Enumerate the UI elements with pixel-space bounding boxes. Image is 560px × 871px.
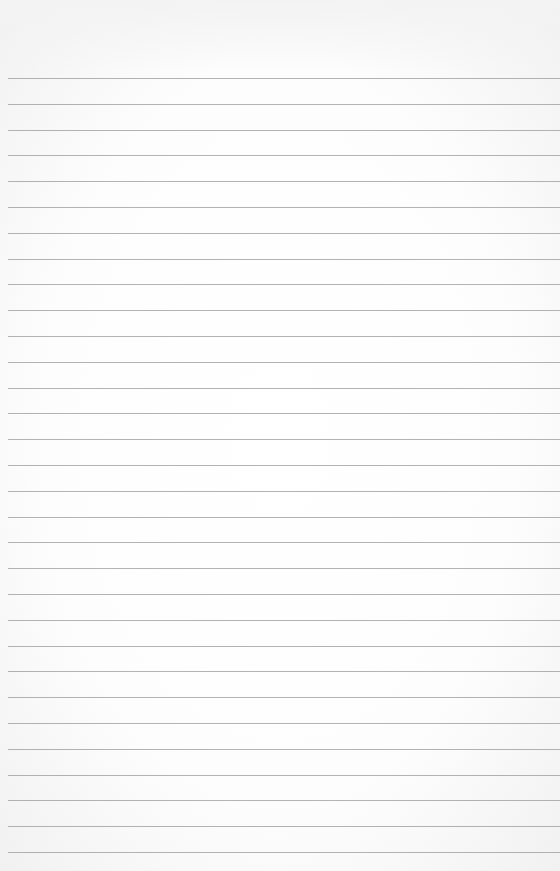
ruled-line bbox=[8, 826, 560, 827]
ruled-line bbox=[8, 465, 560, 466]
ruled-line bbox=[8, 594, 560, 595]
ruled-line bbox=[8, 775, 560, 776]
ruled-line bbox=[8, 671, 560, 672]
ruled-line bbox=[8, 749, 560, 750]
ruled-line bbox=[8, 491, 560, 492]
ruled-line bbox=[8, 620, 560, 621]
ruled-line bbox=[8, 413, 560, 414]
ruled-line bbox=[8, 78, 560, 79]
ruled-line bbox=[8, 517, 560, 518]
ruled-line bbox=[8, 439, 560, 440]
ruled-line bbox=[8, 568, 560, 569]
lined-paper-sheet bbox=[0, 0, 560, 871]
ruled-line bbox=[8, 155, 560, 156]
ruled-line bbox=[8, 130, 560, 131]
ruled-line bbox=[8, 233, 560, 234]
ruled-line bbox=[8, 646, 560, 647]
ruled-line bbox=[8, 259, 560, 260]
ruled-line bbox=[8, 800, 560, 801]
ruled-line bbox=[8, 542, 560, 543]
ruled-line bbox=[8, 362, 560, 363]
ruled-line bbox=[8, 723, 560, 724]
ruled-line bbox=[8, 181, 560, 182]
paper-top-margin bbox=[0, 0, 560, 70]
ruled-line bbox=[8, 207, 560, 208]
ruled-line bbox=[8, 104, 560, 105]
ruled-line bbox=[8, 336, 560, 337]
ruled-line bbox=[8, 697, 560, 698]
ruled-line bbox=[8, 388, 560, 389]
ruled-line bbox=[8, 852, 560, 853]
ruled-line bbox=[8, 284, 560, 285]
ruled-line bbox=[8, 310, 560, 311]
